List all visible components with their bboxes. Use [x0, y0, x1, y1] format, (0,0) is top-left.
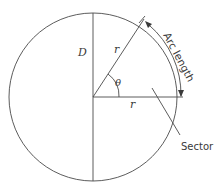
sector-label: Sector — [181, 141, 214, 152]
angle-label: θ — [115, 77, 121, 88]
radius-upper-label: r — [114, 43, 120, 56]
diameter-label: D — [77, 46, 87, 59]
sector-diagram: D r r θ Arc length Sector — [0, 0, 218, 195]
radius-lower-label: r — [130, 98, 136, 111]
arrowhead-bottom — [178, 90, 184, 97]
